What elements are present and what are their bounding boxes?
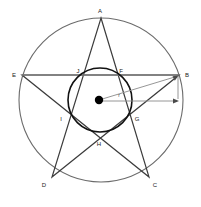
vertex-label-G: G [135, 116, 140, 122]
vertex-label-C: C [153, 182, 158, 188]
center-dot [95, 96, 103, 104]
geometry-figure: r A B C D E F G H I J [0, 0, 201, 207]
vertex-label-H: H [97, 141, 101, 147]
figure-canvas: r A B C D E F G H I J [0, 0, 201, 207]
vertex-label-F: F [119, 68, 123, 74]
vertex-label-E: E [12, 72, 16, 78]
vertex-label-A: A [98, 8, 102, 14]
vertex-label-J: J [77, 68, 80, 74]
vertex-label-D: D [42, 182, 47, 188]
vertex-label-B: B [185, 72, 189, 78]
